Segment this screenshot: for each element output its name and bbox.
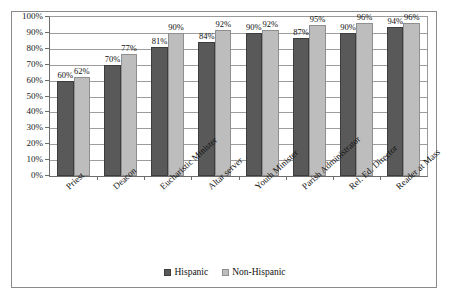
y-axis-tick-mark	[45, 80, 49, 81]
legend-swatch-icon	[164, 269, 171, 276]
bar-value-label: 90%	[163, 23, 189, 32]
bar-non-hispanic	[262, 30, 279, 176]
plot-area	[49, 16, 428, 177]
y-axis-tick-label: 90%	[9, 28, 43, 37]
legend-item[interactable]: Hispanic	[164, 267, 208, 277]
bar-hispanic	[151, 47, 168, 176]
legend-swatch-icon	[222, 269, 229, 276]
bar-non-hispanic	[121, 54, 138, 176]
bar-value-label: 96%	[352, 13, 378, 22]
legend-item[interactable]: Non-Hispanic	[222, 267, 285, 277]
bar-hispanic	[57, 81, 74, 176]
y-axis-tick-label: 10%	[9, 155, 43, 164]
y-axis-tick-mark	[45, 48, 49, 49]
x-axis-tick-mark	[144, 176, 145, 180]
y-axis-tick-label: 80%	[9, 44, 43, 53]
y-axis-tick-mark	[45, 64, 49, 65]
bar-value-label: 92%	[210, 20, 236, 29]
bar-value-label: 90%	[335, 23, 361, 32]
bar-non-hispanic	[215, 30, 232, 176]
bar-non-hispanic	[403, 23, 420, 176]
legend-label: Non-Hispanic	[232, 267, 285, 277]
y-axis-tick-mark	[45, 143, 49, 144]
y-axis-tick-mark	[45, 32, 49, 33]
chart-legend: HispanicNon-Hispanic	[0, 267, 450, 277]
bar-non-hispanic	[356, 23, 373, 176]
bar-value-label: 96%	[399, 13, 425, 22]
y-axis-tick-mark	[45, 175, 49, 176]
bar-value-label: 84%	[194, 32, 220, 41]
y-axis-tick-label: 0%	[9, 171, 43, 180]
bar-value-label: 87%	[288, 28, 314, 37]
y-axis-tick-label: 60%	[9, 76, 43, 85]
bar-value-label: 95%	[304, 15, 330, 24]
y-axis-tick-mark	[45, 127, 49, 128]
y-axis-tick-label: 40%	[9, 107, 43, 116]
bar-hispanic	[104, 65, 121, 176]
x-axis-tick-mark	[380, 176, 381, 180]
y-axis-tick-mark	[45, 96, 49, 97]
y-axis-tick-label: 20%	[9, 139, 43, 148]
bar-value-label: 70%	[99, 55, 125, 64]
x-axis-tick-mark	[239, 176, 240, 180]
bar-value-label: 81%	[147, 37, 173, 46]
x-axis-tick-mark	[333, 176, 334, 180]
y-axis-tick-label: 70%	[9, 60, 43, 69]
y-axis-tick-mark	[45, 16, 49, 17]
bar-non-hispanic	[309, 25, 326, 176]
bar-value-label: 62%	[69, 67, 95, 76]
y-axis-tick-mark	[45, 111, 49, 112]
bar-hispanic	[246, 33, 263, 176]
x-axis-tick-mark	[286, 176, 287, 180]
legend-label: Hispanic	[174, 267, 208, 277]
bar-value-label: 92%	[257, 20, 283, 29]
bar-non-hispanic	[168, 33, 185, 176]
y-axis-tick-label: 30%	[9, 123, 43, 132]
y-axis-tick-label: 100%	[9, 12, 43, 21]
chart-figure: 0%10%20%30%40%50%60%70%80%90%100% 60%62%…	[0, 0, 450, 303]
x-axis-tick-mark	[97, 176, 98, 180]
x-axis-tick-mark	[191, 176, 192, 180]
bar-non-hispanic	[74, 77, 91, 176]
y-axis-tick-label: 50%	[9, 92, 43, 101]
y-axis-tick-mark	[45, 159, 49, 160]
bar-value-label: 77%	[116, 44, 142, 53]
